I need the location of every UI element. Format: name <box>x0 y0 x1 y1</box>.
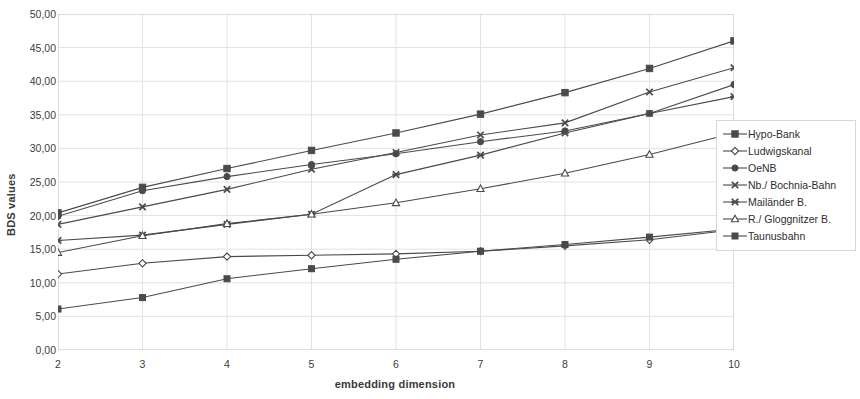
gridlines <box>58 14 734 350</box>
y-axis-tick-label: 20,00 <box>12 210 56 222</box>
x-axis-tick-labels: 2345678910 <box>0 358 860 374</box>
legend-item-r-gloggnitzer-b[interactable]: R./ Gloggnitzer B. <box>719 210 853 227</box>
bds-values-line-chart: BDS values 0,005,0010,0015,0020,0025,003… <box>0 0 860 399</box>
y-axis-tick-label: 25,00 <box>12 176 56 188</box>
x-axis-tick-label: 9 <box>635 358 665 370</box>
y-axis-tick-labels: 0,005,0010,0015,0020,0025,0030,0035,0040… <box>10 0 56 399</box>
legend-item-label: Taunusbahn <box>748 229 805 243</box>
y-axis-tick-label: 40,00 <box>12 75 56 87</box>
x-axis-tick-label: 5 <box>297 358 327 370</box>
legend-item-ludwigskanal[interactable]: Ludwigskanal <box>719 142 853 159</box>
legend-marker-filled-circle-icon <box>722 161 748 175</box>
legend-marker-star-cross-icon <box>722 195 748 209</box>
legend-item-oenb[interactable]: OeNB <box>719 159 853 176</box>
legend-item-mail-nder-b[interactable]: Mailänder B. <box>719 193 853 210</box>
legend-item-label: OeNB <box>748 161 777 175</box>
legend-marker-filled-square-icon <box>722 127 748 141</box>
x-axis-tick-label: 6 <box>381 358 411 370</box>
x-axis-tick-label: 8 <box>550 358 580 370</box>
plot-area <box>58 14 734 350</box>
legend-item-label: Mailänder B. <box>748 195 807 209</box>
y-axis-tick-label: 35,00 <box>12 109 56 121</box>
legend-marker-open-diamond-icon <box>722 144 748 158</box>
x-axis-tick-label: 10 <box>719 358 749 370</box>
y-axis-tick-label: 50,00 <box>12 8 56 20</box>
legend-marker-filled-square-small-icon <box>722 229 748 243</box>
legend-item-label: Nb./ Bochnia-Bahn <box>748 178 836 192</box>
y-axis-tick-label: 15,00 <box>12 243 56 255</box>
legend-item-label: Hypo-Bank <box>748 127 800 141</box>
chart-legend: Hypo-BankLudwigskanalOeNBNb./ Bochnia-Ba… <box>716 120 856 251</box>
y-axis-tick-label: 10,00 <box>12 277 56 289</box>
legend-item-label: R./ Gloggnitzer B. <box>748 212 831 226</box>
legend-item-taunusbahn[interactable]: Taunusbahn <box>719 227 853 244</box>
y-axis-tick-label: 45,00 <box>12 42 56 54</box>
plot-svg <box>58 14 734 350</box>
y-axis-tick-label: 30,00 <box>12 142 56 154</box>
y-axis-tick-label: 5,00 <box>12 310 56 322</box>
x-axis-tick-label: 3 <box>128 358 158 370</box>
x-axis-tick-label: 2 <box>43 358 73 370</box>
legend-marker-x-cross-icon <box>722 178 748 192</box>
x-axis-tick-label: 4 <box>212 358 242 370</box>
y-axis-tick-label: 0,00 <box>12 344 56 356</box>
legend-item-nb-bochnia-bahn[interactable]: Nb./ Bochnia-Bahn <box>719 176 853 193</box>
x-axis-tick-label: 7 <box>466 358 496 370</box>
x-axis-title: embedding dimension <box>55 378 735 390</box>
legend-marker-open-triangle-icon <box>722 212 748 226</box>
legend-item-label: Ludwigskanal <box>748 144 812 158</box>
legend-item-hypo-bank[interactable]: Hypo-Bank <box>719 125 853 142</box>
